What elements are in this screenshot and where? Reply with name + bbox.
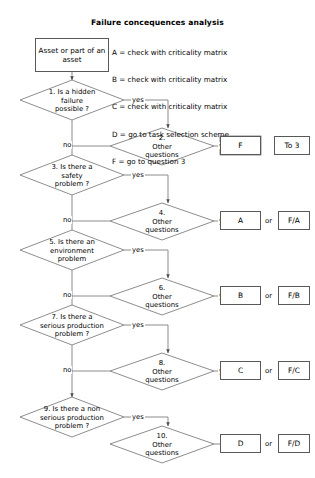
start-node: Asset or part of an asset — [35, 38, 109, 72]
question-q4-label: 4. Other questions — [122, 209, 202, 235]
edge-q5-yes — [124, 250, 168, 278]
edge-q7-yes — [124, 325, 168, 353]
edge-label-q3-no: no — [62, 216, 72, 224]
edge-label-q3-yes: yes — [131, 171, 145, 179]
question-q7-label: 7. Is there a serious production problem… — [14, 313, 130, 339]
separator-label-row4: or — [265, 367, 272, 375]
result-box-fc: F/C — [278, 361, 310, 380]
separator-label-row5: or — [265, 440, 272, 448]
start-node-label: Asset or part of an asset — [36, 46, 108, 65]
result-box-a: A — [220, 211, 261, 230]
edge-label-q7-yes: yes — [131, 321, 145, 329]
result-box-to3-label: To 3 — [285, 141, 300, 150]
result-box-f: F — [220, 136, 261, 155]
result-box-a-label: A — [238, 216, 243, 225]
legend-item-a: A = check with criticality matrix — [112, 48, 229, 58]
separator-label-row3: or — [265, 292, 272, 300]
result-box-d: D — [220, 434, 261, 453]
result-box-f-label: F — [238, 141, 242, 150]
result-box-b-label: B — [238, 291, 243, 300]
question-q6-label: 6. Other questions — [122, 284, 202, 310]
edge-label-q5-no: no — [62, 291, 72, 299]
question-q5-label: 5. Is there an environment problem — [20, 238, 124, 264]
legend-item-c: C = check with criticality matrix — [112, 102, 229, 112]
question-q9-label: 9. Is there a non serious production pro… — [14, 405, 130, 431]
edge-label-q7-no: no — [62, 366, 72, 374]
flowchart-canvas: Failure concequences analysis A = check … — [0, 0, 315, 478]
result-box-d-label: D — [238, 439, 244, 448]
edge-label-q1-yes: yes — [131, 96, 145, 104]
result-box-b: B — [220, 286, 261, 305]
legend: A = check with criticality matrix B = ch… — [112, 31, 229, 184]
question-q10-label: 10. Other questions — [122, 432, 202, 458]
legend-item-b: B = check with criticality matrix — [112, 75, 229, 85]
separator-label-row2: or — [265, 217, 272, 225]
result-box-fc-label: F/C — [288, 366, 300, 375]
result-box-fa: F/A — [278, 211, 310, 230]
question-q1-label: 1. Is a hidden failure possible ? — [24, 88, 120, 114]
edge-label-q9-yes: yes — [131, 413, 145, 421]
result-box-fd: F/D — [278, 434, 310, 453]
result-box-fd-label: F/D — [288, 439, 300, 448]
result-box-fb-label: F/B — [288, 291, 300, 300]
result-box-to3: To 3 — [274, 136, 310, 155]
question-q3-label: 3. Is there a safety problem ? — [22, 163, 122, 189]
result-box-c: C — [220, 361, 261, 380]
result-box-fb: F/B — [278, 286, 310, 305]
question-q8-label: 8. Other questions — [122, 359, 202, 385]
edge-label-q1-no: no — [62, 141, 72, 149]
result-box-fa-label: F/A — [288, 216, 300, 225]
result-box-c-label: C — [238, 366, 243, 375]
page-title: Failure concequences analysis — [0, 19, 315, 28]
edge-label-q5-yes: yes — [131, 246, 145, 254]
question-q2-label: 2. Other questions — [122, 134, 202, 160]
